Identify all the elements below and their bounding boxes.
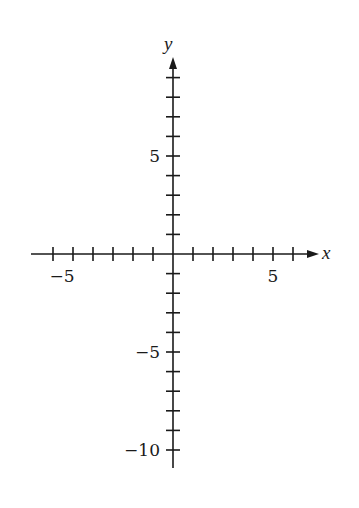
x-tick-label-5: 5 xyxy=(268,266,279,286)
x-axis-label: x xyxy=(321,242,331,263)
y-axis-arrow-icon xyxy=(169,57,177,69)
y-tick-label-neg5: −5 xyxy=(135,342,160,362)
y-axis-label: y xyxy=(162,33,173,54)
y-tick-label-neg10: −10 xyxy=(124,440,160,460)
coordinate-plane: x y −5 5 5 −5 −10 xyxy=(0,0,359,508)
y-tick-label-5: 5 xyxy=(149,146,160,166)
x-axis-arrow-icon xyxy=(307,250,319,258)
x-tick-label-neg5: −5 xyxy=(49,266,74,286)
